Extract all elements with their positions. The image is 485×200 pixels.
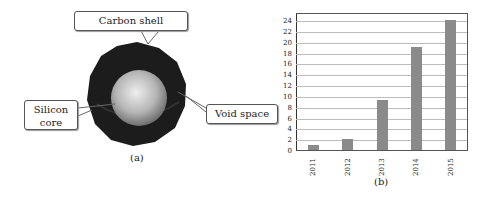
bar-2014 bbox=[411, 47, 422, 150]
bar-chart-plot-area bbox=[296, 13, 468, 151]
caption-a: (a) bbox=[130, 152, 144, 163]
y-tick-label: 16 bbox=[272, 60, 292, 68]
gridline bbox=[296, 64, 467, 65]
y-tick-label: 2 bbox=[272, 136, 292, 144]
gridline bbox=[296, 32, 467, 33]
label-void-space: Void space bbox=[206, 104, 278, 124]
x-tick-label: 2012 bbox=[344, 158, 352, 176]
y-tick-label: 0 bbox=[272, 147, 292, 155]
gridline bbox=[296, 43, 467, 44]
gridline bbox=[296, 54, 467, 55]
label-silicon-core-line1: Silicon bbox=[25, 103, 77, 116]
gridline bbox=[296, 21, 467, 22]
x-tick-label: 2014 bbox=[412, 158, 420, 176]
gridline bbox=[296, 97, 467, 98]
y-tick-label: 12 bbox=[272, 82, 292, 90]
y-tick-label: 18 bbox=[272, 50, 292, 58]
gridline bbox=[296, 75, 467, 76]
x-tick-label: 2011 bbox=[309, 158, 317, 176]
bar-2015 bbox=[445, 20, 456, 150]
y-tick-label: 22 bbox=[272, 28, 292, 36]
bar-2013 bbox=[377, 100, 388, 150]
y-tick-label: 10 bbox=[272, 93, 292, 101]
label-carbon-shell: Carbon shell bbox=[74, 11, 188, 31]
bar-2012 bbox=[342, 139, 353, 150]
panel-a-diagram: Carbon shell Silicon core Void space (a) bbox=[0, 0, 245, 200]
bar-2011 bbox=[308, 145, 319, 150]
x-tick-label: 2013 bbox=[378, 158, 386, 176]
label-silicon-core: Silicon core bbox=[24, 100, 78, 130]
x-tick-label: 2015 bbox=[447, 158, 455, 176]
caption-b: (b) bbox=[374, 176, 388, 187]
y-tick-label: 14 bbox=[272, 71, 292, 79]
y-tick-label: 20 bbox=[272, 39, 292, 47]
y-tick-label: 4 bbox=[272, 125, 292, 133]
y-tick-label: 6 bbox=[272, 115, 292, 123]
gridline bbox=[296, 86, 467, 87]
label-silicon-core-line2: core bbox=[25, 116, 77, 129]
y-tick-label: 24 bbox=[272, 17, 292, 25]
y-tick-label: 8 bbox=[272, 104, 292, 112]
